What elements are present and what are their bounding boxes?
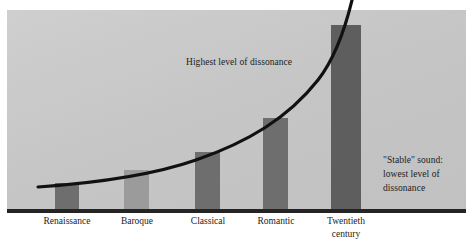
annotation-stable-line-1: "Stable" sound: <box>383 153 443 167</box>
bar-renaissance <box>55 183 79 211</box>
annotation-stable-line-3: dissonance <box>383 181 443 195</box>
annotation-stable-sound: "Stable" sound: lowest level of dissonan… <box>383 153 443 195</box>
tick-label-twentieth-century: Twentieth century <box>301 215 391 240</box>
bar-classical <box>195 152 220 211</box>
x-axis-line <box>7 209 466 213</box>
annotation-highest-dissonance: Highest level of dissonance <box>186 56 292 69</box>
annotation-stable-line-2: lowest level of <box>383 167 443 181</box>
bar-baroque <box>124 170 149 211</box>
bar-twentieth-century <box>331 25 361 211</box>
bar-romantic <box>263 118 288 211</box>
dissonance-chart-figure: Highest level of dissonance "Stable" sou… <box>0 0 472 248</box>
